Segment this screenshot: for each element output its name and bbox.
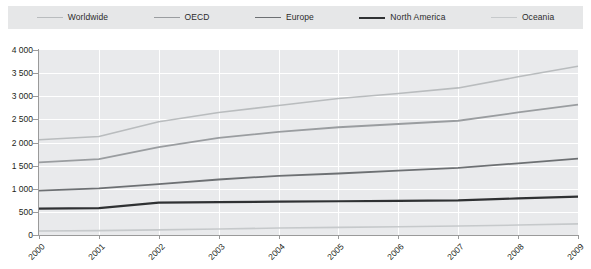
- y-axis-label-1500: 1 500: [0, 161, 33, 171]
- series-line-europe: [39, 159, 578, 191]
- legend-item-oecd[interactable]: OECD: [154, 13, 210, 22]
- x-axis-line: [38, 235, 579, 236]
- y-axis-label-0: 0: [0, 230, 33, 240]
- y-axis-label-4000: 4 000: [0, 45, 33, 55]
- legend-label-oceania: Oceania: [522, 13, 554, 22]
- y-axis-label-3000: 3 000: [0, 91, 33, 101]
- legend-item-europe[interactable]: Europe: [255, 13, 314, 22]
- x-axis-label-2001: 2001: [81, 241, 106, 266]
- legend-swatch-north-america: [359, 17, 385, 19]
- y-axis-label-500: 500: [0, 207, 33, 217]
- legend-item-oceania[interactable]: Oceania: [491, 13, 554, 22]
- series-line-north-america: [39, 197, 578, 209]
- legend-swatch-europe: [255, 17, 281, 18]
- legend-label-north-america: North America: [390, 13, 445, 22]
- x-axis-label-2008: 2008: [500, 241, 525, 266]
- legend-swatch-worldwide: [37, 17, 63, 18]
- y-axis-label-2000: 2 000: [0, 138, 33, 148]
- series-lines: [39, 50, 578, 235]
- legend-label-worldwide: Worldwide: [68, 13, 108, 22]
- legend-swatch-oecd: [154, 17, 180, 18]
- x-axis-label-2007: 2007: [440, 241, 465, 266]
- y-axis-label-1000: 1 000: [0, 184, 33, 194]
- legend-swatch-oceania: [491, 17, 517, 18]
- legend-item-worldwide[interactable]: Worldwide: [37, 13, 108, 22]
- x-axis-label-2002: 2002: [141, 241, 166, 266]
- series-line-oceania: [39, 224, 578, 231]
- plot-wrapper: 05001 0001 5002 0002 5003 0003 5004 000 …: [0, 36, 591, 269]
- series-line-oecd: [39, 105, 578, 163]
- legend-item-north-america[interactable]: North America: [359, 13, 445, 22]
- x-axis-label-2005: 2005: [321, 241, 346, 266]
- chart-legend: Worldwide OECD Europe North America Ocea…: [8, 6, 583, 29]
- x-axis-label-2000: 2000: [21, 241, 46, 266]
- legend-label-oecd: OECD: [185, 13, 210, 22]
- y-axis-labels: 05001 0001 5002 0002 5003 0003 5004 000: [0, 50, 33, 235]
- legend-label-europe: Europe: [286, 13, 314, 22]
- y-axis-label-3500: 3 500: [0, 68, 33, 78]
- y-axis-label-2500: 2 500: [0, 114, 33, 124]
- x-axis-label-2009: 2009: [560, 241, 585, 266]
- x-axis-label-2004: 2004: [261, 241, 286, 266]
- x-axis-label-2003: 2003: [201, 241, 226, 266]
- chart-root: Worldwide OECD Europe North America Ocea…: [0, 0, 591, 269]
- gridline-x-2009: [578, 50, 579, 235]
- x-axis-labels: 2000200120022003200420052006200720082009: [0, 240, 591, 269]
- x-axis-label-2006: 2006: [381, 241, 406, 266]
